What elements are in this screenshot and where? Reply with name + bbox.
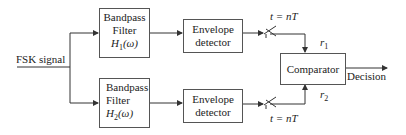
detector-2-line1: Envelope <box>192 93 234 106</box>
decision-label: Decision <box>347 70 386 82</box>
filter-1-transfer: H1(ω) <box>111 37 138 54</box>
filter-2-transfer: H2(ω) <box>106 107 133 124</box>
detector-2-line2: detector <box>195 106 230 119</box>
detector-1-line1: Envelope <box>192 23 234 36</box>
filter-1-line1: Bandpass <box>103 11 145 24</box>
filter-1-line2: Filter <box>113 24 137 37</box>
comparator-label: Comparator <box>287 63 340 76</box>
filter-2-line1: Bandpass <box>106 81 148 94</box>
detector-1-line2: detector <box>195 36 230 49</box>
filter-2-line2: Filter <box>106 94 130 107</box>
envelope-detector-2: Envelope detector <box>183 89 243 123</box>
sampler-2-label: t = nT <box>270 112 298 124</box>
r1-label: r1 <box>320 36 328 51</box>
r2-label: r2 <box>320 88 328 103</box>
bandpass-filter-2: Bandpass Filter H2(ω) <box>99 78 150 128</box>
sampler-1-label: t = nT <box>270 10 298 22</box>
bandpass-filter-1: Bandpass Filter H1(ω) <box>99 8 150 58</box>
envelope-detector-1: Envelope detector <box>183 19 243 53</box>
comparator-block: Comparator <box>280 53 346 85</box>
fsk-signal-label: FSK signal <box>16 53 65 65</box>
